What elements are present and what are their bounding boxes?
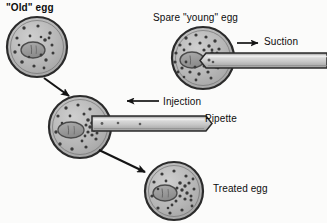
recipient-egg-nucleus xyxy=(58,122,84,138)
label-suction: Suction xyxy=(264,36,298,47)
injection-pipette xyxy=(92,116,212,131)
old-egg-cell xyxy=(7,17,67,77)
ooplasmic-transfer-diagram: "Old" egg Spare "young" egg Suction Inje… xyxy=(0,0,327,223)
treated-egg-nucleus xyxy=(153,185,177,201)
label-pipette: Pipette xyxy=(205,113,237,124)
treated-egg-cell xyxy=(145,162,203,220)
label-injection: Injection xyxy=(163,96,201,107)
diagram-canvas xyxy=(0,0,327,223)
label-treated-egg: Treated egg xyxy=(213,183,268,194)
label-old-egg: "Old" egg xyxy=(6,2,54,13)
suction-pipette xyxy=(200,53,327,68)
label-spare-young-egg: Spare "young" egg xyxy=(153,12,238,23)
